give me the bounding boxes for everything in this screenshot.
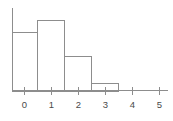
bar-bin-0: [13, 33, 38, 92]
x-tick-label-1: 1: [49, 99, 54, 110]
bar-bin-2: [65, 57, 92, 92]
chart-canvas: 0 1 2 3 4 5: [0, 0, 173, 121]
x-tick-label-5: 5: [157, 99, 162, 110]
x-axis-tick-labels: 0 1 2 3 4 5: [22, 99, 162, 110]
x-tick-label-0: 0: [22, 99, 27, 110]
x-tick-label-2: 2: [76, 99, 81, 110]
histogram-chart: 0 1 2 3 4 5: [0, 0, 173, 121]
bar-series: [13, 21, 119, 92]
x-tick-label-3: 3: [103, 99, 108, 110]
x-tick-label-4: 4: [130, 99, 135, 110]
bar-bin-1: [38, 21, 65, 92]
